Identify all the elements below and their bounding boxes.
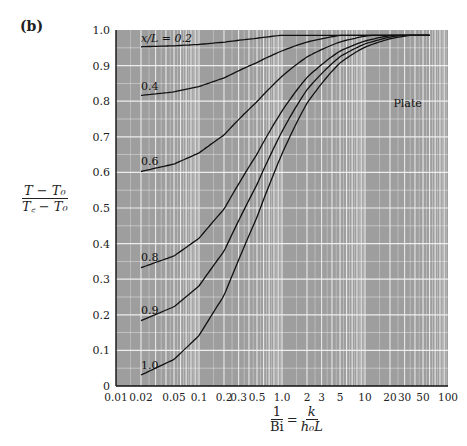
x-title-lhs-den: Bi (270, 420, 284, 434)
x-title-rhs-num: k (306, 405, 318, 420)
plate-annotation: Plate (393, 97, 421, 110)
x-tick-label: 0.5 (249, 391, 266, 403)
y-tick-label: 0.7 (93, 131, 111, 144)
y-tick-label: 1.0 (93, 24, 111, 37)
x-tick-label: 0.05 (162, 391, 185, 403)
x-tick-label: 100 (438, 391, 458, 403)
y-tick-label: 0.3 (93, 273, 111, 286)
x-tick-label: 50 (416, 391, 429, 403)
x-tick-label: 5 (337, 391, 344, 403)
x-axis-title: 1 Bi = k h₀L (270, 405, 323, 434)
curve-label: 1.0 (141, 359, 159, 372)
curve-label: 0.8 (141, 251, 159, 264)
x-tick-label: 2 (304, 391, 311, 403)
x-tick-label: 30 (398, 391, 411, 403)
curve-label: 0.4 (141, 80, 159, 93)
curve-label: 0.6 (141, 155, 159, 168)
y-tick-label: 0.1 (93, 344, 111, 357)
x-title-rhs: k h₀L (301, 405, 323, 434)
y-tick-label: 0.6 (93, 166, 111, 179)
y-tick-label: 0.2 (93, 309, 111, 322)
y-tick-label: 0.9 (93, 60, 111, 73)
y-axis-title: T − T₀ T꜀ − T₀ (22, 183, 68, 214)
curve-label: 0.9 (141, 304, 159, 317)
x-title-lhs: 1 Bi (270, 405, 284, 434)
x-title-equals: = (287, 412, 298, 427)
x-tick-label: 1.0 (274, 391, 291, 403)
y-tick-label: 0.5 (93, 202, 111, 215)
x-tick-label: 0.02 (129, 391, 152, 403)
chart-canvas: 00.10.20.30.40.50.60.70.80.91.00.010.020… (0, 0, 467, 446)
y-tick-label: 0.8 (93, 95, 111, 108)
curve-label: x/L = 0.2 (141, 32, 192, 45)
x-tick-label: 0.1 (191, 391, 208, 403)
y-axis-title-denominator: T꜀ − T₀ (22, 199, 68, 214)
x-tick-label: 10 (358, 391, 371, 403)
x-title-lhs-num: 1 (271, 405, 283, 420)
x-tick-label: 20 (383, 391, 396, 403)
x-title-rhs-den: h₀L (301, 420, 323, 434)
x-tick-label: 3 (318, 391, 325, 403)
y-tick-label: 0.4 (93, 238, 111, 251)
y-axis-title-numerator: T − T₀ (22, 183, 68, 199)
x-tick-label: 0.3 (230, 391, 247, 403)
x-tick-label: 0.01 (104, 391, 127, 403)
